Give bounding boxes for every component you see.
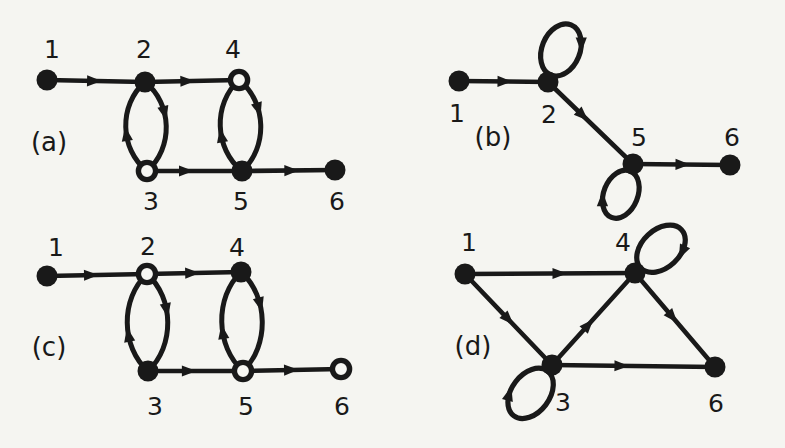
node-label-c-2: 2 [140, 232, 156, 261]
arrowhead-icon [182, 365, 197, 376]
node-d-1 [455, 264, 476, 285]
edge-curve-a-4-5-L [220, 80, 242, 171]
edge-curve-c-4-5-L [222, 272, 243, 371]
node-label-a-5: 5 [233, 187, 249, 216]
node-a-2 [135, 72, 156, 93]
node-label-c-1: 1 [48, 233, 64, 262]
panel-c: 124356(c) [32, 232, 350, 421]
node-label-b-6: 6 [724, 123, 740, 152]
node-d-4 [625, 263, 646, 284]
arrowhead-icon [284, 165, 299, 176]
node-label-a-3: 3 [143, 187, 159, 216]
arrowhead-icon [502, 386, 513, 401]
node-label-b-1: 1 [449, 99, 465, 128]
node-label-c-4: 4 [229, 233, 245, 262]
node-label-d-1: 1 [461, 228, 477, 257]
edge-d-3-6 [552, 365, 715, 367]
graph-figure: 124356(a)1256(b)124356(c)1436(d) [0, 0, 785, 448]
arrowhead-icon [552, 268, 567, 279]
edge-curve-a-2-3-R [145, 82, 166, 171]
node-a-6 [325, 160, 346, 181]
node-b-5 [623, 154, 644, 175]
edge-curve-c-2-3-R [147, 274, 168, 371]
edge-d-3-4 [552, 273, 635, 365]
node-label-c-3: 3 [147, 392, 163, 421]
node-d-3 [542, 355, 563, 376]
edge-d-1-4 [465, 273, 635, 274]
panel-label-b: (b) [475, 122, 512, 152]
node-label-c-6: 6 [334, 392, 350, 421]
arrowhead-icon [87, 75, 102, 86]
panel-label-a: (a) [31, 127, 67, 157]
node-label-a-1: 1 [44, 35, 60, 64]
arrowhead-icon [179, 165, 194, 176]
node-b-6 [720, 155, 741, 176]
arrowhead-icon [679, 243, 690, 258]
node-c-5 [234, 362, 251, 379]
node-b-1 [449, 71, 470, 92]
node-label-c-5: 5 [238, 392, 254, 421]
arrowhead-icon [253, 296, 264, 311]
edge-curve-a-2-3-L [126, 82, 147, 171]
node-label-b-5: 5 [631, 123, 647, 152]
self-loop-b-2 [533, 18, 588, 82]
arrowhead-icon [157, 105, 168, 120]
panel-b: 1256(b) [449, 18, 741, 224]
arrowhead-icon [597, 192, 608, 207]
edge-curve-a-4-5-R [239, 80, 261, 171]
arrowhead-icon [497, 76, 512, 87]
arrowhead-icon [251, 101, 262, 116]
node-label-b-2: 2 [541, 100, 557, 129]
node-label-a-6: 6 [329, 187, 345, 216]
node-c-6 [332, 360, 349, 377]
node-a-3 [138, 162, 155, 179]
node-c-3 [138, 361, 159, 382]
node-c-2 [138, 265, 155, 282]
arrowhead-icon [675, 159, 690, 170]
arrowhead-icon [180, 76, 195, 87]
panel-label-c: (c) [32, 332, 67, 362]
panel-d: 1436(d) [455, 216, 726, 427]
node-b-2 [538, 72, 559, 93]
node-d-6 [705, 357, 726, 378]
edge-curve-c-4-5-R [241, 272, 262, 371]
node-label-d-3: 3 [555, 388, 571, 417]
node-label-a-2: 2 [136, 35, 152, 64]
node-c-1 [37, 266, 58, 287]
arrowhead-icon [576, 38, 587, 53]
arrowhead-icon [84, 270, 99, 281]
node-label-a-4: 4 [225, 35, 241, 64]
panel-a: 124356(a) [31, 35, 346, 216]
figure-canvas: 124356(a)1256(b)124356(c)1436(d) [0, 0, 785, 448]
node-c-4 [231, 262, 252, 283]
arrowhead-icon [284, 365, 299, 376]
arrowhead-icon [185, 268, 200, 279]
edge-b-2-5 [548, 82, 633, 164]
arrowhead-icon [614, 360, 629, 371]
panel-label-d: (d) [455, 331, 492, 361]
node-a-4 [230, 71, 247, 88]
node-label-d-4: 4 [615, 228, 631, 257]
edge-curve-c-2-3-L [127, 274, 148, 371]
node-a-5 [232, 161, 253, 182]
node-label-d-6: 6 [708, 389, 724, 418]
node-a-1 [37, 70, 58, 91]
